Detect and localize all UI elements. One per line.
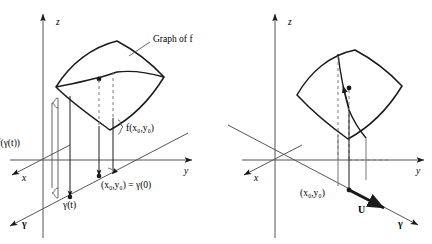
left-gamma-axis-label: γ bbox=[21, 218, 27, 229]
left-foot-point-x0y0 bbox=[97, 174, 102, 179]
left-gamma-t-label: γ(t) bbox=[62, 200, 76, 211]
left-z-axis-label: z bbox=[55, 17, 60, 27]
right-z-axis-label: z bbox=[287, 17, 292, 27]
left-domain-point-label: (x₀,y₀) = γ(0) bbox=[101, 180, 151, 191]
left-graph-of-f-label: Graph of f bbox=[153, 34, 193, 44]
left-y-axis-label: y bbox=[183, 166, 189, 176]
left-f-gamma-t-label: f(γ(t)) bbox=[0, 138, 20, 149]
left-f-x0y0-label: f(x₀,y₀) bbox=[126, 123, 154, 134]
math-figure: z y x γ Graph of f f(γ(t)) f(x₀,y₀) (x₀,… bbox=[0, 0, 432, 244]
left-x-axis-label: x bbox=[21, 173, 27, 183]
right-surface-point bbox=[347, 86, 352, 91]
right-domain-point-label: (x₀,y₀) bbox=[300, 188, 325, 199]
right-x-axis-label: x bbox=[253, 173, 259, 183]
right-gamma-axis-label: γ bbox=[397, 218, 403, 229]
right-vector-U-label: U bbox=[358, 204, 365, 215]
figure-canvas: z y x γ Graph of f f(γ(t)) f(x₀,y₀) (x₀,… bbox=[0, 0, 432, 244]
right-y-axis-label: y bbox=[415, 166, 421, 176]
left-foot-point-gamma-t bbox=[68, 195, 73, 200]
